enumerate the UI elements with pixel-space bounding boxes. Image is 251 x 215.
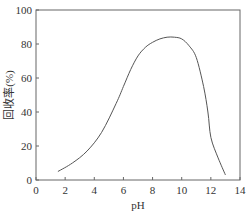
plot-frame xyxy=(36,10,240,180)
x-tick-label: 2 xyxy=(62,184,68,196)
x-tick-label: 4 xyxy=(92,184,98,196)
y-tick-label: 60 xyxy=(21,72,33,84)
y-tick-label: 40 xyxy=(21,106,33,118)
chart: 020406080100 02468101214 pH 回收率(%) xyxy=(0,0,251,215)
y-tick-label: 20 xyxy=(21,140,33,152)
data-series xyxy=(58,37,226,175)
x-tick-label: 6 xyxy=(121,184,127,196)
x-axis-label: pH xyxy=(131,199,145,211)
y-tick-label: 100 xyxy=(16,4,33,16)
y-axis-ticks: 020406080100 xyxy=(16,4,40,186)
recovery-curve xyxy=(58,37,226,175)
y-axis-label: 回收率(%) xyxy=(2,70,16,120)
plot-border xyxy=(36,10,240,180)
x-tick-label: 0 xyxy=(33,184,39,196)
y-tick-label: 80 xyxy=(21,38,33,50)
y-tick-label: 0 xyxy=(27,174,33,186)
x-tick-label: 14 xyxy=(235,184,247,196)
x-tick-label: 12 xyxy=(205,184,216,196)
x-tick-label: 10 xyxy=(176,184,188,196)
x-tick-label: 8 xyxy=(150,184,156,196)
